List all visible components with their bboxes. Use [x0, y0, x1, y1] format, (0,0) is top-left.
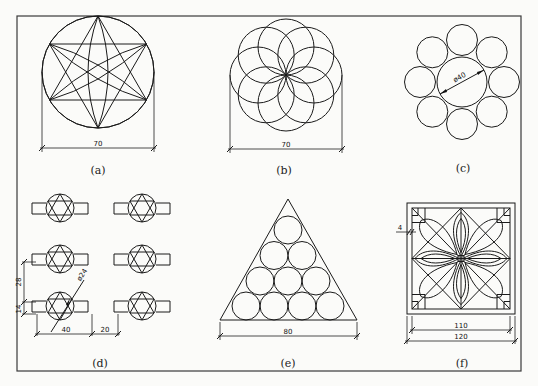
- figure-e: 80 (e): [217, 199, 360, 370]
- dim-4: 4: [398, 224, 403, 232]
- dim-dia-24: ø24: [75, 267, 89, 283]
- dimension-label: 70: [94, 140, 103, 148]
- caption-f: (f): [456, 357, 469, 370]
- caption-b: (b): [276, 164, 292, 177]
- figure-d: 28 14 ø24 40 20 (d): [15, 194, 170, 370]
- dim-120: 120: [454, 333, 467, 341]
- caption-a: (a): [90, 164, 105, 177]
- figure-b: 70 (b): [227, 19, 345, 177]
- dim-28: 28: [15, 278, 23, 287]
- caption-d: (d): [92, 357, 108, 370]
- petal-diag-1: [50, 44, 147, 100]
- figure-c: ø40 (c): [405, 25, 520, 176]
- drawing-sheet: 70 (a) 70 (b): [0, 0, 538, 386]
- figure-f: 4 110 120 (f): [396, 203, 518, 370]
- dim-110: 110: [454, 322, 467, 330]
- petal-diag-2: [50, 44, 147, 100]
- diameter-label: ø40: [452, 71, 467, 84]
- figure-a: 70 (a): [39, 16, 157, 177]
- dimension-label: 70: [282, 141, 291, 149]
- dim-20: 20: [101, 326, 110, 334]
- dim-14: 14: [15, 304, 23, 313]
- outer-circle: [42, 16, 154, 128]
- petal-vertical: [88, 16, 108, 128]
- caption-c: (c): [456, 162, 471, 175]
- caption-e: (e): [280, 357, 295, 370]
- dim-40: 40: [62, 326, 71, 334]
- dim-80: 80: [284, 328, 293, 336]
